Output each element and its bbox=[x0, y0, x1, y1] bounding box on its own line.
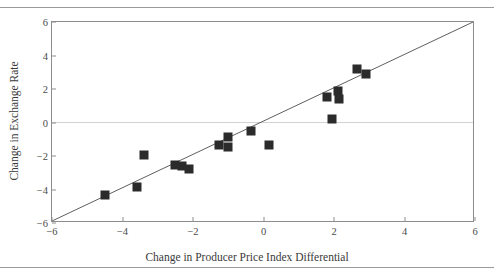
bottom-divider-rule bbox=[0, 267, 494, 268]
data-point bbox=[132, 182, 141, 191]
top-divider-rule bbox=[0, 7, 494, 8]
data-point bbox=[100, 190, 109, 199]
data-point bbox=[361, 69, 370, 78]
data-point bbox=[224, 142, 233, 151]
data-point bbox=[247, 126, 256, 135]
chart-title bbox=[0, 0, 494, 2]
x-tick-mark bbox=[193, 217, 194, 221]
x-tick-label: −4 bbox=[117, 226, 128, 237]
y-tick-label: 4 bbox=[43, 50, 48, 61]
data-point bbox=[352, 64, 361, 73]
y-tick-label: 0 bbox=[43, 117, 48, 128]
x-tick-label: 6 bbox=[472, 226, 477, 237]
y-axis-label: Change in Exchange Rate bbox=[8, 61, 20, 180]
y-tick-label: 2 bbox=[43, 84, 48, 95]
data-point bbox=[185, 164, 194, 173]
y-tick-mark bbox=[52, 223, 56, 224]
y-tick-mark bbox=[52, 156, 56, 157]
data-point bbox=[328, 115, 337, 124]
data-point bbox=[139, 151, 148, 160]
x-tick-label: 0 bbox=[261, 226, 266, 237]
x-tick-mark bbox=[475, 217, 476, 221]
x-tick-label: −2 bbox=[187, 226, 198, 237]
data-point bbox=[335, 95, 344, 104]
y-tick-label: −4 bbox=[37, 184, 48, 195]
x-tick-mark bbox=[52, 217, 53, 221]
x-tick-label: 2 bbox=[331, 226, 336, 237]
scatter-plot-figure: Change in Exchange Rate −6−4−20246 −6−4−… bbox=[0, 0, 494, 275]
data-point bbox=[215, 140, 224, 149]
y-tick-mark bbox=[52, 189, 56, 190]
x-tick-mark bbox=[122, 217, 123, 221]
x-tick-mark bbox=[404, 217, 405, 221]
x-tick-mark bbox=[263, 217, 264, 221]
y-tick-label: −2 bbox=[37, 151, 48, 162]
x-tick-label: 4 bbox=[402, 226, 407, 237]
identity-reference-line bbox=[52, 22, 473, 221]
x-axis-label: Change in Producer Price Index Different… bbox=[0, 251, 494, 263]
data-point bbox=[322, 92, 331, 101]
x-tick-label: −6 bbox=[46, 226, 57, 237]
data-point bbox=[223, 132, 232, 141]
y-tick-mark bbox=[52, 89, 56, 90]
x-tick-mark bbox=[334, 217, 335, 221]
plot-area: −6−4−20246 −6−4−20246 bbox=[51, 21, 474, 222]
y-tick-mark bbox=[52, 55, 56, 56]
y-tick-mark bbox=[52, 122, 56, 123]
y-tick-mark bbox=[52, 22, 56, 23]
data-point bbox=[264, 141, 273, 150]
y-tick-label: 6 bbox=[43, 17, 48, 28]
